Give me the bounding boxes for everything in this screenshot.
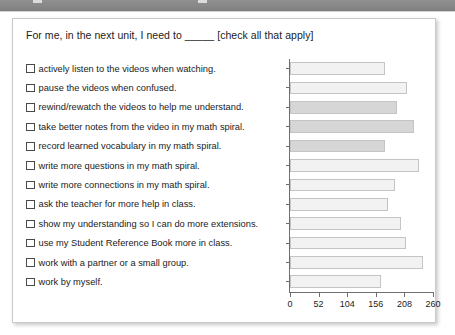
checklist-item[interactable]: take better notes from the video in my m… [26, 117, 288, 136]
bar-row [290, 234, 437, 253]
bar [290, 256, 423, 269]
bar-row [290, 59, 437, 78]
x-tick-mark [433, 293, 434, 297]
checkbox-icon[interactable] [26, 258, 35, 267]
bar-row [290, 214, 437, 233]
bar [290, 198, 388, 211]
bar [290, 217, 401, 230]
checkbox-icon[interactable] [26, 142, 35, 151]
checklist-item-label: work by myself. [39, 277, 103, 287]
checklist-item[interactable]: rewind/rewatch the videos to help me und… [26, 98, 288, 117]
checklist-item[interactable]: ask the teacher for more help in class. [26, 195, 288, 214]
checkbox-icon[interactable] [26, 181, 35, 190]
chrome-mark-right [198, 0, 207, 3]
x-tick-mark [404, 293, 405, 297]
bar-row [290, 98, 437, 117]
checkbox-icon[interactable] [26, 103, 35, 112]
bar-row [290, 156, 437, 175]
bar-row [290, 195, 437, 214]
checklist-item[interactable]: actively listen to the videos when watch… [26, 59, 288, 78]
chrome-underline [0, 11, 455, 12]
x-tick-label: 156 [368, 299, 383, 309]
checkbox-icon[interactable] [26, 278, 35, 287]
checklist-item[interactable]: show my understanding so I can do more e… [26, 214, 288, 233]
x-tick-mark [290, 293, 291, 297]
bar [290, 275, 381, 288]
bar [290, 101, 397, 114]
chrome-mark-left [33, 0, 42, 3]
bar [290, 179, 395, 192]
bar [290, 140, 385, 153]
x-tick-label: 0 [287, 299, 292, 309]
bar [290, 237, 406, 250]
horizontal-bar-chart: 052104156208260 [287, 59, 437, 321]
survey-results-card: For me, in the next unit, I need to ____… [12, 18, 436, 323]
bar-row [290, 272, 437, 291]
x-axis-ticks: 052104156208260 [287, 292, 437, 316]
bar-row [290, 78, 437, 97]
checklist-item-label: use my Student Reference Book more in cl… [39, 238, 233, 248]
window-chrome-bar [0, 0, 455, 11]
x-tick-label: 208 [397, 299, 412, 309]
checkbox-icon[interactable] [26, 161, 35, 170]
x-tick-mark [319, 293, 320, 297]
bar [290, 82, 407, 95]
x-tick-label: 104 [340, 299, 355, 309]
bar-row [290, 137, 437, 156]
x-tick-mark [347, 293, 348, 297]
bar-series [290, 59, 437, 292]
page-title: For me, in the next unit, I need to ____… [26, 29, 313, 41]
checklist-item-label: actively listen to the videos when watch… [39, 64, 216, 74]
x-tick-label: 260 [425, 299, 440, 309]
checklist-item-label: show my understanding so I can do more e… [39, 219, 259, 229]
checklist-item-label: pause the videos when confused. [39, 83, 177, 93]
checklist-item[interactable]: work by myself. [26, 272, 288, 291]
bar [290, 159, 419, 172]
checkbox-icon[interactable] [26, 64, 35, 73]
checklist-item-label: record learned vocabulary in my math spi… [39, 141, 222, 151]
checkbox-icon[interactable] [26, 200, 35, 209]
checklist-item[interactable]: write more connections in my math spiral… [26, 175, 288, 194]
checklist-item[interactable]: pause the videos when confused. [26, 78, 288, 97]
x-tick-label: 52 [314, 299, 324, 309]
checklist-item-label: write more questions in my math spiral. [39, 161, 200, 171]
checklist-item[interactable]: use my Student Reference Book more in cl… [26, 234, 288, 253]
checkbox-icon[interactable] [26, 84, 35, 93]
checklist-item-label: rewind/rewatch the videos to help me und… [39, 102, 244, 112]
x-tick-mark [376, 293, 377, 297]
checklist: actively listen to the videos when watch… [26, 59, 288, 292]
checklist-item[interactable]: work with a partner or a small group. [26, 253, 288, 272]
checklist-item[interactable]: write more questions in my math spiral. [26, 156, 288, 175]
checkbox-icon[interactable] [26, 123, 35, 132]
bar [290, 120, 414, 133]
checkbox-icon[interactable] [26, 220, 35, 229]
checklist-item-label: take better notes from the video in my m… [39, 122, 245, 132]
bar [290, 62, 385, 75]
checklist-item-label: work with a partner or a small group. [39, 258, 189, 268]
checkbox-icon[interactable] [26, 239, 35, 248]
bar-row [290, 253, 437, 272]
chart-and-labels: actively listen to the videos when watch… [13, 59, 437, 321]
checklist-item-label: write more connections in my math spiral… [39, 180, 210, 190]
checklist-item-label: ask the teacher for more help in class. [39, 199, 196, 209]
checklist-item[interactable]: record learned vocabulary in my math spi… [26, 137, 288, 156]
bar-row [290, 175, 437, 194]
bar-row [290, 117, 437, 136]
screenshot-root: For me, in the next unit, I need to ____… [0, 0, 455, 335]
